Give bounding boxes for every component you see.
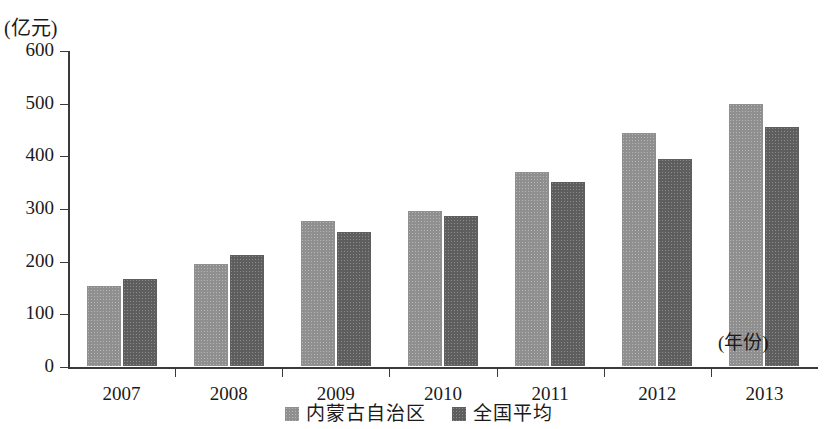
chart-legend: 内蒙古自治区全国平均 <box>0 404 838 424</box>
bar-2009-series-1 <box>337 232 371 366</box>
bar-2008-series-0 <box>194 264 228 366</box>
bar-2009-series-0 <box>301 221 335 366</box>
y-axis-tick: 100 <box>60 314 68 315</box>
y-axis-tick: 200 <box>60 262 68 263</box>
x-axis-tick <box>175 368 176 377</box>
bar-2008-series-1 <box>230 255 264 366</box>
x-axis-tick <box>497 368 498 377</box>
dark-gray-swatch <box>452 407 466 421</box>
y-axis-tick-label: 100 <box>26 303 55 322</box>
bar-2013-series-1 <box>765 127 799 366</box>
x-axis-tick-label: 2013 <box>745 383 783 405</box>
bar-2010-series-1 <box>444 216 478 366</box>
y-axis-tick: 0 <box>60 367 68 368</box>
x-axis-tick <box>604 368 605 377</box>
y-axis-tick-label: 0 <box>45 356 55 375</box>
bar-2013-series-0 <box>729 104 763 366</box>
x-axis-tick-label: 2009 <box>317 383 355 405</box>
y-axis-unit-label: (亿元) <box>4 18 57 38</box>
bar-2007-series-0 <box>87 286 121 366</box>
x-axis-line <box>68 367 818 369</box>
light-gray-swatch <box>285 407 299 421</box>
y-axis-tick: 300 <box>60 209 68 210</box>
y-axis-tick-label: 400 <box>26 145 55 164</box>
bar-2007-series-1 <box>123 279 157 366</box>
bar-2012-series-0 <box>622 133 656 366</box>
bar-2011-series-0 <box>515 172 549 366</box>
y-axis-tick-label: 500 <box>26 93 55 112</box>
x-axis-tick-label: 2012 <box>638 383 676 405</box>
legend-item-1[interactable]: 全国平均 <box>452 404 553 424</box>
y-axis-tick: 600 <box>60 51 68 52</box>
y-axis-tick: 400 <box>60 156 68 157</box>
x-axis-tick <box>389 368 390 377</box>
bar-2010-series-0 <box>408 211 442 366</box>
x-axis-tick-label: 2011 <box>531 383 568 405</box>
legend-item-0[interactable]: 内蒙古自治区 <box>285 404 426 424</box>
legend-item-label: 内蒙古自治区 <box>306 404 426 424</box>
x-axis-tick-label: 2010 <box>424 383 462 405</box>
y-axis-tick-label: 600 <box>26 40 55 59</box>
x-axis-tick-label: 2008 <box>210 383 248 405</box>
x-axis-tick <box>711 368 712 377</box>
y-axis-tick: 500 <box>60 104 68 105</box>
bar-2011-series-1 <box>551 182 585 366</box>
bar-2012-series-1 <box>658 159 692 367</box>
y-axis-line <box>68 51 70 369</box>
y-axis-tick-label: 300 <box>26 198 55 217</box>
legend-item-label: 全国平均 <box>473 404 553 424</box>
x-axis-tick-label: 2007 <box>103 383 141 405</box>
x-axis-tick <box>282 368 283 377</box>
plot-area: 0100200300400500600 20072008200920102011… <box>68 51 818 368</box>
bar-chart-figure: (亿元) 0100200300400500600 200720082009201… <box>0 0 838 429</box>
y-axis-tick-label: 200 <box>26 251 55 270</box>
x-axis-unit-label: (年份) <box>718 332 769 354</box>
